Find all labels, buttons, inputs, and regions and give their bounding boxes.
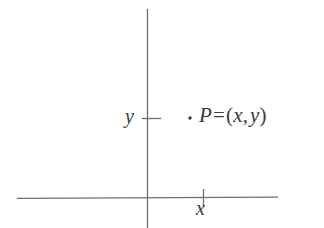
close-paren: ): [260, 103, 267, 127]
x-axis-label: x: [196, 198, 205, 218]
point-label-expression: P=(x,y): [199, 105, 267, 126]
x-axis-line: [17, 197, 278, 198]
coordinate-comma: ,: [243, 103, 250, 127]
equals-sign: =: [212, 103, 226, 127]
y-coordinate: y: [250, 103, 260, 127]
point-name: P: [199, 103, 212, 127]
coordinate-plane-figure: y x P=(x,y): [0, 0, 324, 228]
axes-svg: [0, 0, 324, 228]
point-marker-p: [188, 116, 191, 119]
x-coordinate: x: [233, 103, 243, 127]
y-axis-label: y: [125, 106, 134, 126]
